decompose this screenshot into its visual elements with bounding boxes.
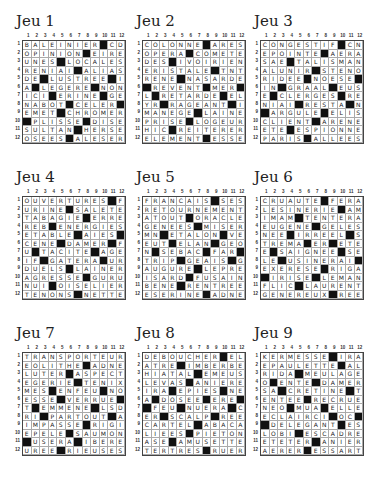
column-number: 5: [178, 188, 187, 196]
letter-cell: E: [108, 109, 117, 118]
letter-cell: A: [160, 370, 169, 379]
letter-cell: I: [220, 109, 229, 118]
column-number: 2: [33, 32, 42, 40]
letter-cell: E: [91, 92, 100, 101]
row-number: 7: [252, 91, 260, 100]
letter-cell: S: [74, 430, 83, 439]
letter-cell: E: [270, 291, 279, 300]
letter-cell: E: [261, 438, 270, 447]
letter-cell: E: [117, 50, 126, 59]
row-number: 10: [134, 117, 142, 126]
row-number: 8: [134, 412, 142, 421]
letter-cell: E: [237, 282, 246, 291]
letter-cell: L: [186, 421, 195, 430]
letter-cell: E: [143, 135, 152, 144]
letter-cell: U: [74, 197, 83, 206]
row-number: 8: [134, 256, 142, 265]
puzzle-9: Jeu 9123456789101112123456789101112KERME…: [252, 324, 364, 456]
letter-cell: N: [355, 274, 364, 283]
letter-cell: P: [152, 50, 161, 59]
letter-cell: I: [211, 379, 220, 388]
letter-cell: R: [32, 353, 41, 362]
letter-cell: I: [40, 282, 49, 291]
letter-cell: E: [186, 126, 195, 135]
letter-cell: N: [287, 67, 296, 76]
letter-cell: E: [83, 248, 92, 257]
letter-cell: I: [295, 231, 304, 240]
black-cell: [74, 438, 83, 447]
letter-cell: R: [346, 447, 355, 456]
column-number: 1: [144, 32, 153, 40]
letter-cell: I: [287, 274, 296, 283]
black-cell: [329, 413, 338, 422]
letter-cell: A: [304, 84, 313, 93]
letter-cell: N: [295, 206, 304, 215]
letter-cell: E: [91, 126, 100, 135]
letter-cell: S: [108, 404, 117, 413]
letter-cell: B: [40, 223, 49, 232]
letter-cell: C: [108, 370, 117, 379]
letter-cell: S: [312, 430, 321, 439]
column-number: 11: [229, 188, 238, 196]
column-number: 1: [24, 188, 33, 196]
letter-cell: L: [338, 404, 347, 413]
letter-cell: E: [169, 282, 178, 291]
row-number: 2: [134, 49, 142, 58]
letter-cell: E: [49, 447, 58, 456]
letter-cell: E: [278, 265, 287, 274]
letter-cell: S: [329, 92, 338, 101]
letter-cell: S: [278, 248, 287, 257]
letter-cell: E: [304, 430, 313, 439]
row-number: 11: [134, 281, 142, 290]
letter-cell: S: [355, 135, 364, 144]
letter-cell: E: [346, 291, 355, 300]
letter-cell: O: [203, 118, 212, 127]
letter-cell: I: [287, 430, 296, 439]
letter-cell: E: [32, 223, 41, 232]
letter-cell: I: [237, 101, 246, 110]
letter-cell: E: [237, 231, 246, 240]
letter-cell: E: [100, 438, 109, 447]
letter-cell: C: [57, 248, 66, 257]
letter-cell: R: [261, 370, 270, 379]
letter-cell: R: [66, 413, 75, 422]
column-numbers: 123456789101112: [24, 344, 126, 352]
letter-cell: R: [329, 257, 338, 266]
row-number: 1: [134, 40, 142, 49]
letter-cell: R: [108, 50, 117, 59]
letter-cell: L: [270, 282, 279, 291]
letter-cell: R: [220, 41, 229, 50]
letter-cell: T: [304, 197, 313, 206]
letter-cell: M: [211, 370, 220, 379]
letter-cell: T: [329, 421, 338, 430]
letter-cell: E: [160, 430, 169, 439]
letter-cell: I: [100, 421, 109, 430]
letter-cell: R: [304, 92, 313, 101]
row-number: 6: [252, 83, 260, 92]
letter-cell: I: [74, 41, 83, 50]
letter-cell: L: [321, 84, 330, 93]
letter-cell: T: [261, 240, 270, 249]
black-cell: [57, 240, 66, 249]
letter-cell: E: [83, 387, 92, 396]
letter-cell: S: [203, 438, 212, 447]
letter-cell: E: [295, 421, 304, 430]
letter-cell: I: [211, 257, 220, 266]
letter-cell: E: [329, 274, 338, 283]
letter-cell: T: [57, 362, 66, 371]
letter-cell: I: [278, 118, 287, 127]
letter-cell: E: [278, 379, 287, 388]
letter-cell: E: [117, 214, 126, 223]
letter-cell: N: [66, 223, 75, 232]
letter-cell: U: [23, 206, 32, 215]
column-number: 2: [33, 188, 42, 196]
letter-cell: R: [270, 240, 279, 249]
letter-cell: D: [228, 75, 237, 84]
letter-cell: A: [152, 421, 161, 430]
black-cell: [74, 67, 83, 76]
letter-cell: A: [49, 248, 58, 257]
letter-cell: Y: [143, 101, 152, 110]
letter-cell: A: [152, 109, 161, 118]
letter-cell: G: [57, 214, 66, 223]
letter-cell: L: [329, 135, 338, 144]
